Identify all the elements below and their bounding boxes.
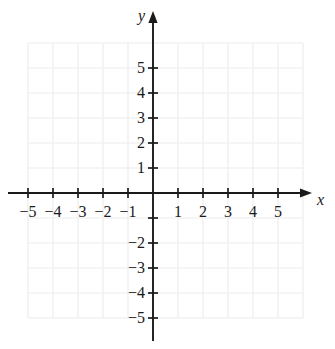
y-axis-tick-label: −2	[117, 235, 145, 251]
y-axis-tick-label: 5	[117, 60, 145, 76]
coordinate-plane-figure: −5−4−3−2−112345 54321−2−3−4−5 x y	[0, 0, 335, 349]
x-axis-tick-label: 3	[215, 204, 241, 220]
x-axis-tick-label: 5	[265, 204, 291, 220]
y-axis-tick-label: 2	[117, 135, 145, 151]
x-axis-tick-label: −5	[15, 204, 41, 220]
coordinate-plane-canvas	[0, 0, 335, 349]
x-axis-tick-label: −1	[115, 204, 141, 220]
x-axis-arrowhead	[300, 188, 312, 197]
y-axis-tick-label: −4	[117, 285, 145, 301]
x-axis-label: x	[317, 192, 324, 208]
y-axis-tick-label: −3	[117, 260, 145, 276]
y-axis-tick-label: 1	[117, 160, 145, 176]
x-axis-tick-label: −4	[40, 204, 66, 220]
x-axis-tick-label: 1	[165, 204, 191, 220]
y-axis-tick-label: −5	[117, 310, 145, 326]
y-axis-tick-label: 4	[117, 85, 145, 101]
y-axis-label: y	[138, 8, 145, 24]
x-axis-tick-label: 2	[190, 204, 216, 220]
x-axis-tick-label: 4	[240, 204, 266, 220]
y-axis-arrowhead	[148, 11, 157, 23]
x-axis-tick-label: −2	[90, 204, 116, 220]
x-axis-tick-label: −3	[65, 204, 91, 220]
y-axis-tick-label: 3	[117, 110, 145, 126]
gridlines-group	[28, 43, 303, 318]
